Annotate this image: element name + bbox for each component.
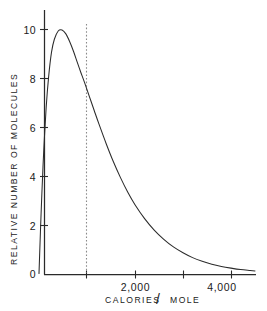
y-tick-label-10: 10 bbox=[24, 24, 36, 36]
plot-axes bbox=[44, 10, 256, 275]
x-axis-title-mole: MOLE bbox=[170, 295, 200, 305]
y-tick-label-8: 8 bbox=[30, 73, 36, 85]
x-tick-label-2000: 2,000 bbox=[121, 281, 150, 293]
y-tick-label-2: 2 bbox=[30, 220, 36, 232]
x-axis-title: CALORIES / MOLE bbox=[105, 291, 200, 307]
distribution-curve bbox=[39, 30, 255, 274]
y-axis-tick-labels: 10 8 6 4 2 0 bbox=[24, 24, 36, 280]
maxwell-boltzmann-distribution-chart: 10 8 6 4 2 0 2,000 4,000 CALORIES / MOLE… bbox=[0, 0, 267, 311]
x-axis-title-calories: CALORIES bbox=[105, 295, 160, 305]
y-tick-label-0: 0 bbox=[30, 268, 36, 280]
y-tick-label-6: 6 bbox=[30, 122, 36, 134]
y-axis-title: RELATIVE NUMBER OF MOLECULES bbox=[9, 73, 19, 265]
y-axis-title-group: RELATIVE NUMBER OF MOLECULES bbox=[9, 73, 19, 265]
x-axis-tick-labels: 2,000 4,000 bbox=[121, 281, 237, 293]
y-tick-label-4: 4 bbox=[30, 171, 36, 183]
x-tick-label-4000: 4,000 bbox=[207, 281, 236, 293]
x-axis-title-slash: / bbox=[156, 291, 160, 307]
